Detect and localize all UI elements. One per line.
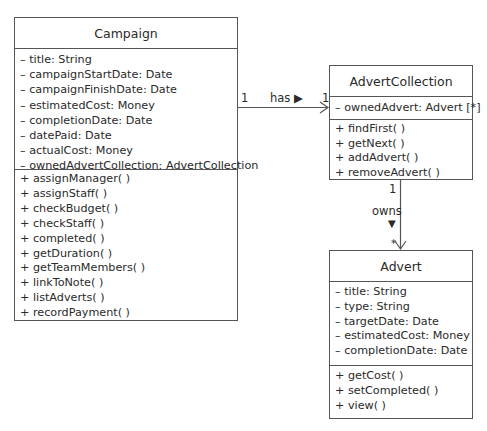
has-source-multiplicity: 1 [241,91,248,105]
operation: + findFirst( ) [335,122,472,137]
operation: + getCost( ) [335,369,472,384]
class-name: Campaign [15,18,237,49]
owns-target-multiplicity: * [391,238,396,249]
class-advert-collection: AdvertCollection – ownedAdvert: Advert [… [329,65,473,180]
operation: + removeAdvert( ) [335,166,472,181]
attribute: – completionDate: Date [335,344,472,359]
operation: + completed( ) [20,232,237,247]
operation: + assignManager( ) [20,172,237,187]
attribute: – datePaid: Date [20,128,237,143]
operation: + getTeamMembers( ) [20,261,237,276]
has-target-multiplicity: 1 [322,91,329,105]
class-advert: Advert – title: String – type: String – … [329,250,473,419]
attribute: – ownedAdvert: Advert [*] [335,99,472,117]
operation: + checkBudget( ) [20,202,237,217]
class-campaign: Campaign – title: String – campaignStart… [14,17,238,321]
attribute: – completionDate: Date [20,113,237,128]
owns-association-label: owns [372,204,402,218]
attribute: – title: String [20,52,237,67]
operation: + addAdvert( ) [335,151,472,166]
attribute: – estimatedCost: Money [335,329,472,344]
attribute: – title: String [335,285,472,300]
attributes-section: – title: String – type: String – targetD… [330,282,472,366]
attribute: – campaignFinishDate: Date [20,82,237,97]
owns-source-multiplicity: 1 [389,182,396,196]
operation: + setCompleted( ) [335,384,472,399]
operation: + getDuration( ) [20,247,237,262]
operation: + assignStaff( ) [20,187,237,202]
operation: + recordPayment( ) [20,306,237,321]
operation: + view( ) [335,399,472,414]
class-name: AdvertCollection [330,66,472,97]
attribute: – actualCost: Money [20,143,237,158]
operation: + linkToNote( ) [20,276,237,291]
attribute: – campaignStartDate: Date [20,67,237,82]
class-name: Advert [330,251,472,282]
has-association-label: has ▶ [270,91,303,105]
operation: + listAdverts( ) [20,291,237,306]
attribute: – targetDate: Date [335,315,472,330]
operations-section: + findFirst( ) + getNext( ) + addAdvert(… [330,120,472,182]
operations-section: + getCost( ) + setCompleted( ) + view( ) [330,366,472,415]
operation: + getNext( ) [335,137,472,152]
operations-section: + assignManager( ) + assignStaff( ) + ch… [15,170,237,323]
attribute: – estimatedCost: Money [20,98,237,113]
owns-direction-icon: ▼ [388,218,396,229]
attribute: – type: String [335,300,472,315]
attributes-section: – title: String – campaignStartDate: Dat… [15,49,237,170]
operation: + checkStaff( ) [20,217,237,232]
attributes-section: – ownedAdvert: Advert [*] [330,97,472,120]
